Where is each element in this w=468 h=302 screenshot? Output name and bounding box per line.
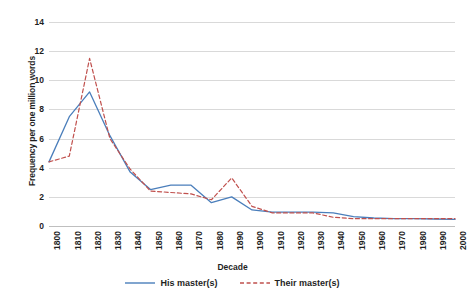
series-layer: [49, 22, 455, 226]
chart-legend: His master(s)Their master(s): [0, 278, 465, 288]
legend-label: Their master(s): [275, 278, 340, 288]
x-axis-tick-label: 1950: [357, 231, 367, 250]
x-axis-tick-label: 1980: [418, 231, 428, 250]
x-axis-title: Decade: [0, 262, 465, 272]
y-axis-tick-label: 4: [39, 163, 44, 173]
legend-dashed-line-icon: [240, 278, 270, 288]
y-axis-tick-label: 2: [39, 192, 44, 202]
x-axis-tick-label: 2000: [458, 231, 468, 250]
y-axis-title: Frequency per one million words: [27, 31, 37, 211]
legend-label: His master(s): [160, 278, 217, 288]
series-line: [49, 92, 455, 220]
x-axis-tick-label: 1940: [336, 231, 346, 250]
x-axis-tick-label: 1880: [215, 231, 225, 250]
y-axis-tick-label: 6: [39, 134, 44, 144]
x-axis-tick-label: 1960: [377, 231, 387, 250]
axis-baseline: [49, 226, 455, 227]
legend-solid-line-icon: [125, 278, 155, 288]
x-axis-tick-label: 1810: [73, 231, 83, 250]
x-axis-tick-label: 1840: [133, 231, 143, 250]
series-line: [49, 58, 455, 218]
x-axis-tick-label: 1910: [276, 231, 286, 250]
y-axis-tick-label: 12: [35, 46, 44, 56]
x-axis-tick-label: 1870: [194, 231, 204, 250]
x-axis-tick-label: 1800: [52, 231, 62, 250]
x-axis-tick-label: 1850: [154, 231, 164, 250]
y-axis-tick-label: 10: [35, 75, 44, 85]
x-axis-tick-label: 1920: [296, 231, 306, 250]
x-axis-tick-label: 1890: [235, 231, 245, 250]
y-axis-tick-label: 0: [39, 221, 44, 231]
plot-area: 02468101214: [49, 22, 455, 226]
y-axis-tick-label: 14: [35, 17, 44, 27]
x-axis-tick-label: 1830: [113, 231, 123, 250]
x-axis-tick-label: 1990: [438, 231, 448, 250]
legend-item[interactable]: His master(s): [125, 278, 217, 288]
x-axis-tick-label: 1900: [255, 231, 265, 250]
x-axis-tick-label: 1930: [316, 231, 326, 250]
legend-item[interactable]: Their master(s): [240, 278, 340, 288]
y-axis-tick-label: 8: [39, 104, 44, 114]
x-axis-tick-label: 1820: [93, 231, 103, 250]
x-axis-tick-label: 1860: [174, 231, 184, 250]
x-axis-tick-label: 1970: [397, 231, 407, 250]
